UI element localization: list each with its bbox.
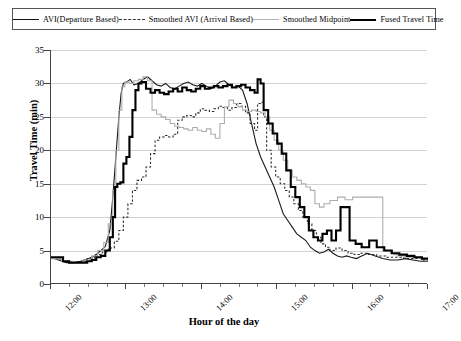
x-tick-mark-1500 (276, 284, 277, 289)
x-minor-tick-mark (107, 284, 108, 287)
x-minor-tick-mark (314, 284, 315, 287)
x-tick-mark-1700 (427, 284, 428, 289)
x-tick-label-1200: 12:00 (63, 292, 84, 313)
x-tick-label-1500: 15:00 (289, 292, 310, 313)
x-tick-mark-1400 (201, 284, 202, 289)
x-minor-tick-mark (88, 284, 89, 287)
x-minor-tick-mark (257, 284, 258, 287)
x-minor-tick-mark (333, 284, 334, 287)
x-minor-tick-mark (163, 284, 164, 287)
x-tick-mark-1300 (125, 284, 126, 289)
x-minor-tick-mark (295, 284, 296, 287)
x-minor-tick-mark (408, 284, 409, 287)
x-tick-mark-1200 (50, 284, 51, 289)
x-minor-tick-mark (389, 284, 390, 287)
x-minor-tick-mark (144, 284, 145, 287)
x-minor-tick-mark (220, 284, 221, 287)
x-tick-mark-1600 (352, 284, 353, 289)
x-minor-tick-mark (182, 284, 183, 287)
x-tick-label-1300: 13:00 (138, 292, 159, 313)
x-tick-label-1600: 16:00 (364, 292, 385, 313)
x-minor-tick-mark (370, 284, 371, 287)
x-minor-tick-mark (239, 284, 240, 287)
x-tick-label-1700: 17:00 (440, 292, 461, 313)
x-axis-title: Hour of the day (0, 316, 448, 327)
x-tick-label-1400: 14:00 (214, 292, 235, 313)
x-minor-tick-mark (69, 284, 70, 287)
